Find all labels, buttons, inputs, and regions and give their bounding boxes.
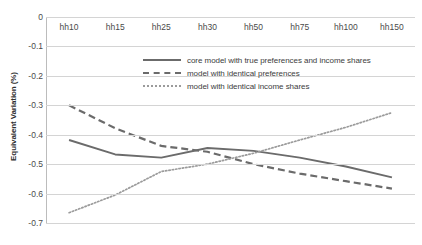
gridline: [46, 164, 415, 165]
x-axis-tick-label: hh15: [106, 22, 125, 32]
y-axis-tick-label: -0.1: [28, 42, 43, 50]
legend-item-core-model: core model with true preferences and inc…: [142, 54, 414, 66]
x-axis-tick-label: hh75: [290, 22, 309, 32]
x-axis-tick-label: hh150: [380, 22, 404, 32]
chart-legend: core model with true preferences and inc…: [142, 54, 414, 93]
y-axis-tick-label: -0.3: [28, 101, 43, 109]
x-axis-tick-label: hh10: [60, 22, 79, 32]
legend-label: model with identical income shares: [187, 82, 309, 91]
chart-container: Equivalent Variation (%) 0-0.1-0.2-0.3-0…: [0, 0, 422, 245]
gridline: [46, 105, 415, 106]
plot-area: [46, 17, 415, 223]
gridline: [46, 46, 415, 47]
legend-item-identical-preferences: model with identical preferences: [142, 67, 414, 79]
y-axis-tick-label: 0: [38, 13, 43, 21]
y-axis-tick-label: -0.4: [28, 131, 43, 139]
legend-label: model with identical preferences: [187, 69, 300, 78]
gridline: [46, 194, 415, 195]
gridline: [46, 223, 415, 224]
series-layer: [46, 17, 415, 223]
y-axis-tick-labels: 0-0.1-0.2-0.3-0.4-0.5-0.6-0.7: [18, 0, 46, 245]
gridline: [46, 135, 415, 136]
y-axis-title-wrap: Equivalent Variation (%): [0, 0, 18, 245]
y-axis-title: Equivalent Variation (%): [9, 42, 18, 192]
gridline: [46, 17, 415, 18]
legend-label: core model with true preferences and inc…: [187, 56, 371, 65]
x-axis-tick-label: hh25: [152, 22, 171, 32]
y-axis-tick-label: -0.6: [28, 190, 43, 198]
legend-item-identical-income-shares: model with identical income shares: [142, 80, 414, 92]
y-axis-tick-label: -0.7: [28, 219, 43, 227]
y-axis-tick-label: -0.5: [28, 160, 43, 168]
series-line-3: [69, 113, 392, 213]
y-axis-tick-label: -0.2: [28, 72, 43, 80]
x-axis-tick-label: hh50: [244, 22, 263, 32]
legend-line-dotted-icon: [142, 81, 182, 91]
series-line-2: [69, 105, 392, 188]
x-axis-tick-label: hh100: [334, 22, 358, 32]
x-axis-tick-label: hh30: [198, 22, 217, 32]
legend-line-solid-icon: [142, 55, 182, 65]
legend-line-dashed-icon: [142, 68, 182, 78]
